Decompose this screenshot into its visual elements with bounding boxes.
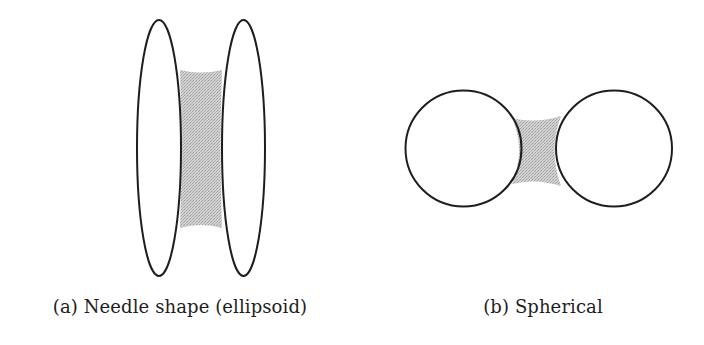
figure-canvas: (a) Needle shape (ellipsoid) (b) Spheric…: [0, 0, 704, 345]
sphere-right: [556, 91, 672, 207]
caption-needle-shape: (a) Needle shape (ellipsoid): [53, 296, 307, 317]
panel-b-spherical: [406, 91, 673, 207]
caption-spherical: (b) Spherical: [483, 296, 603, 317]
needle-ellipsoid-left: [137, 20, 181, 276]
needle-gap-shading: [180, 70, 222, 228]
diagram-svg: [0, 0, 704, 345]
needle-ellipsoid-right: [222, 20, 265, 276]
panel-a-needle: [137, 20, 265, 276]
sphere-left: [406, 91, 522, 207]
